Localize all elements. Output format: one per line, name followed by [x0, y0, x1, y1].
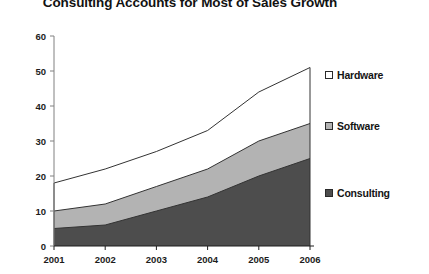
y-tick-label: 40	[35, 101, 46, 112]
stacked-area-series	[54, 68, 310, 247]
y-tick-label: 60	[35, 31, 46, 42]
x-tick-label: 2003	[146, 254, 167, 265]
x-tick-label: 2001	[43, 254, 65, 265]
x-axis-ticks: 200120022003200420052006	[43, 246, 320, 265]
y-tick-label: 30	[35, 136, 46, 147]
legend-item-consulting[interactable]: Consulting	[325, 187, 390, 199]
y-axis-ticks: 0102030405060	[35, 31, 54, 252]
legend-swatch-consulting	[325, 189, 333, 197]
y-tick-label: 10	[35, 206, 46, 217]
chart-container: Consulting Accounts for Most of Sales Gr…	[0, 0, 429, 274]
chart-plot-area: 0102030405060 200120022003200420052006	[0, 0, 429, 274]
legend-item-hardware[interactable]: Hardware	[325, 69, 383, 81]
y-tick-label: 20	[35, 171, 46, 182]
legend-label-consulting: Consulting	[337, 187, 390, 199]
legend-label-hardware: Hardware	[337, 69, 383, 81]
legend-swatch-hardware	[325, 71, 333, 79]
x-tick-label: 2002	[95, 254, 116, 265]
legend-item-software[interactable]: Software	[325, 120, 380, 132]
x-tick-label: 2004	[197, 254, 219, 265]
y-tick-label: 0	[41, 241, 46, 252]
x-tick-label: 2006	[299, 254, 320, 265]
legend-label-software: Software	[337, 120, 380, 132]
legend-swatch-software	[325, 122, 333, 130]
x-tick-label: 2005	[248, 254, 270, 265]
y-tick-label: 50	[35, 66, 46, 77]
